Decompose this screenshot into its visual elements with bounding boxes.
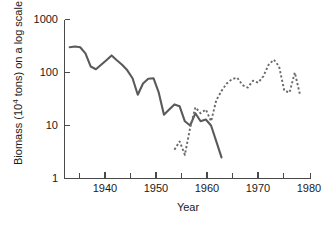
y-tick-label-1: 1 [52,172,58,184]
y-axis-title-post: tons) on a log scale [12,1,24,99]
biomass-log-line-chart: Biomass (104 tons) on a log scale 1000 1… [0,0,329,225]
x-tick-label-1940: 1940 [93,182,117,194]
series-line-solid [70,46,222,157]
series-line-dashed [174,60,300,155]
svg-text:Biomass (104 tons) on a log sc: Biomass (104 tons) on a log scale [11,1,24,165]
x-axis-title: Year [177,201,200,213]
y-tick-label-100: 100 [40,66,58,78]
chart-figure: Biomass (104 tons) on a log scale 1000 1… [0,0,329,225]
x-tick-label-1960: 1960 [195,182,219,194]
y-axis-title-pre: Biomass (10 [12,104,24,165]
x-tick-label-1950: 1950 [144,182,168,194]
x-tick-label-1980: 1980 [297,182,321,194]
y-tick-label-10: 10 [46,119,58,131]
axis-spines [65,20,311,179]
y-tick-label-1000: 1000 [34,13,58,25]
y-axis-title: Biomass (104 tons) on a log scale [11,1,24,165]
x-tick-label-1970: 1970 [246,182,270,194]
